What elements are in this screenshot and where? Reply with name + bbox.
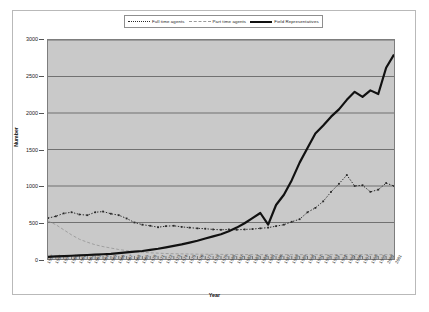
series-marker-0-33: [307, 211, 309, 213]
y-tick-label-4: 2000: [26, 110, 38, 116]
series-marker-0-25: [244, 229, 246, 231]
chart-figure: Full time agentsPart time agentsField Re…: [0, 0, 429, 312]
y-tick-label-5: 2500: [26, 73, 38, 79]
series-marker-0-17: [181, 226, 183, 228]
series-marker-0-18: [189, 227, 191, 229]
series-marker-0-8: [110, 213, 112, 215]
series-marker-0-2: [63, 212, 65, 214]
series-marker-0-14: [157, 226, 159, 228]
series-marker-0-3: [71, 211, 73, 213]
series-marker-0-16: [173, 225, 175, 227]
legend-key-solid-icon: [250, 19, 272, 24]
series-marker-0-40: [362, 184, 364, 186]
series-marker-0-35: [322, 200, 324, 202]
series-marker-0-44: [393, 185, 394, 187]
series-marker-0-27: [259, 227, 261, 229]
legend-label: Field Representatives: [274, 19, 319, 24]
y-tick-label-2: 1000: [26, 183, 38, 189]
series-marker-0-36: [330, 191, 332, 193]
series-marker-0-42: [377, 189, 379, 191]
series-line-1: [48, 221, 394, 255]
legend-label: Part time agents: [213, 19, 247, 24]
series-marker-0-9: [118, 214, 120, 216]
series-marker-0-7: [102, 211, 104, 213]
series-marker-0-34: [314, 207, 316, 209]
y-tick-label-6: 3000: [26, 36, 38, 42]
series-marker-0-30: [283, 224, 285, 226]
legend-item-1: Part time agents: [189, 19, 247, 24]
series-marker-0-41: [370, 191, 372, 193]
series-marker-0-11: [134, 222, 136, 224]
series-marker-0-29: [275, 225, 277, 227]
legend-label: Full time agents: [152, 19, 185, 24]
series-marker-0-5: [86, 214, 88, 216]
series-marker-0-32: [299, 218, 301, 220]
y-axis-title: Number: [13, 107, 19, 167]
series-marker-0-12: [141, 224, 143, 226]
series-marker-0-6: [94, 211, 96, 213]
y-tick-mark-2: [39, 186, 44, 187]
y-tick-mark-3: [39, 150, 44, 151]
series-marker-0-43: [385, 182, 387, 184]
y-tick-mark-6: [39, 39, 44, 40]
series-marker-0-28: [267, 227, 269, 229]
series-line-0: [48, 175, 394, 230]
series-marker-0-31: [291, 221, 293, 223]
y-tick-label-1: 500: [29, 220, 38, 226]
y-tick-mark-1: [39, 223, 44, 224]
series-marker-0-21: [212, 229, 214, 231]
y-tick-label-3: 1500: [26, 147, 38, 153]
series-marker-0-26: [252, 228, 254, 230]
series-marker-0-39: [354, 185, 356, 187]
legend-item-2: Field Representatives: [250, 19, 319, 24]
legend-key-dotted-icon: [128, 19, 150, 24]
series-marker-0-19: [197, 227, 199, 229]
series-marker-0-15: [165, 225, 167, 227]
x-axis: 1957195819591960196119621963196419651966…: [47, 262, 395, 292]
y-tick-mark-5: [39, 76, 44, 77]
series-marker-0-20: [204, 228, 206, 230]
y-tick-label-0: 0: [35, 257, 38, 263]
y-tick-mark-4: [39, 113, 44, 114]
series-marker-0-37: [338, 183, 340, 185]
series-line-2: [48, 55, 394, 257]
series-marker-0-0: [48, 217, 49, 219]
series-marker-0-24: [236, 229, 238, 231]
series-marker-0-22: [220, 229, 222, 231]
legend-item-0: Full time agents: [128, 19, 185, 24]
legend-key-dashed-icon: [189, 19, 211, 24]
x-axis-title: Year: [0, 292, 429, 298]
series-marker-0-38: [346, 174, 348, 176]
plot-area: [47, 39, 395, 260]
chart-legend: Full time agentsPart time agentsField Re…: [124, 15, 323, 28]
y-tick-mark-0: [39, 260, 44, 261]
series-marker-0-4: [79, 214, 81, 216]
series-marker-0-13: [149, 225, 151, 227]
series-marker-0-10: [126, 218, 128, 220]
series-marker-0-1: [55, 215, 57, 217]
y-axis: 050010001500200025003000: [0, 33, 45, 266]
plot-svg: [48, 40, 394, 259]
